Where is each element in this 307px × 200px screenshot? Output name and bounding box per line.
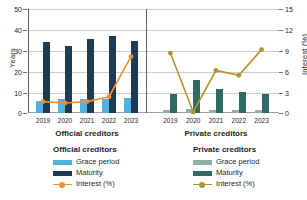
- interest-point[interactable]: 2022: 5.3%: [236, 73, 241, 78]
- interest-line-path: [170, 50, 261, 112]
- interest-point[interactable]: 2019: 1.5%: [41, 99, 46, 104]
- interest-point[interactable]: 2020: 0%: [191, 110, 196, 115]
- y-tick-30: 30: [6, 48, 22, 55]
- x-tick-label: 2021: [205, 115, 228, 126]
- legend-label-grace-private: Grace period: [216, 157, 259, 167]
- x-tick-label: 2022: [227, 115, 250, 126]
- y2-tick-9: 9: [285, 48, 301, 55]
- y2-tick-15: 15: [285, 6, 301, 13]
- interest-point[interactable]: 2020: 1.3%: [63, 101, 68, 106]
- legend-item-interest-private[interactable]: Interest (%): [193, 179, 259, 189]
- legend-swatch-grace-private: [193, 160, 212, 165]
- x-tick-label: 2022: [98, 115, 120, 126]
- legend-label-grace-official: Grace period: [76, 157, 119, 167]
- interest-point[interactable]: 2023: 8%: [129, 54, 134, 59]
- interest-line-path: [43, 57, 131, 103]
- panel-private-creditors: 2019: 8.5%2020: 0%2021: 6%2022: 5.3%2023…: [159, 8, 273, 113]
- legend-item-maturity-official[interactable]: Maturity: [53, 168, 119, 178]
- x-axis-labels-private: 20192020202120222023: [159, 115, 273, 126]
- legend-item-interest-official[interactable]: Interest (%): [53, 179, 119, 189]
- interest-point[interactable]: 2019: 8.5%: [168, 51, 173, 56]
- legend-heading-official: Official creditors: [53, 145, 119, 154]
- y-tick-40: 40: [6, 27, 22, 34]
- y-tick-10: 10: [6, 90, 22, 97]
- legend-swatch-maturity-official: [53, 171, 72, 176]
- y-tick-0: 0: [6, 110, 22, 117]
- x-axis-labels-official: 20192020202120222023: [32, 115, 142, 126]
- y-tick-50: 50: [6, 6, 22, 13]
- interest-point[interactable]: 2021: 6%: [214, 68, 219, 73]
- panel-title-private: Private creditors: [159, 129, 273, 138]
- y2-tick-0: 0: [285, 110, 301, 117]
- y2-tick-3: 3: [285, 90, 301, 97]
- legend-label-maturity-official: Maturity: [76, 168, 103, 178]
- legend-label-interest-private: Interest (%): [216, 179, 255, 189]
- interest-point[interactable]: 2022: 2.2%: [107, 94, 112, 99]
- legend-heading-private: Private creditors: [193, 145, 259, 154]
- x-tick-label: 2020: [182, 115, 205, 126]
- legend-swatch-maturity-private: [193, 171, 212, 176]
- legend-item-maturity-private[interactable]: Maturity: [193, 168, 259, 178]
- y2-tick-6: 6: [285, 69, 301, 76]
- panel-official-creditors: 2019: 1.5%2020: 1.3%2021: 1.5%2022: 2.2%…: [32, 8, 142, 113]
- interest-line-official: 2019: 1.5%2020: 1.3%2021: 1.5%2022: 2.2%…: [32, 8, 142, 113]
- legend-label-maturity-private: Maturity: [216, 168, 243, 178]
- right-axis-title: Interest (%): [300, 34, 307, 75]
- x-tick-label: 2020: [54, 115, 76, 126]
- left-panel-spine: [28, 9, 29, 113]
- legend-swatch-interest-official: [53, 179, 72, 189]
- x-tick-label: 2019: [159, 115, 182, 126]
- legend-item-grace-official[interactable]: Grace period: [53, 157, 119, 167]
- right-panel-spine: [146, 9, 147, 113]
- legend-private: Private creditors Grace period Maturity …: [193, 145, 259, 190]
- plot-area: 2019: 1.5%2020: 1.3%2021: 1.5%2022: 2.2%…: [28, 8, 279, 113]
- x-tick-label: 2023: [120, 115, 142, 126]
- chart-figure: Years 50 40 30 20 10 0 Interest (%) 15 1…: [0, 0, 307, 200]
- legend-item-grace-private[interactable]: Grace period: [193, 157, 259, 167]
- legend-swatch-interest-private: [193, 179, 212, 189]
- x-tick-label: 2021: [76, 115, 98, 126]
- legend-swatch-grace-official: [53, 160, 72, 165]
- interest-point[interactable]: 2021: 1.5%: [85, 99, 90, 104]
- interest-point[interactable]: 2023: 9%: [259, 47, 264, 52]
- panel-title-official: Official creditors: [32, 129, 142, 138]
- y2-tick-12: 12: [285, 27, 301, 34]
- legend-official: Official creditors Grace period Maturity…: [53, 145, 119, 190]
- legend-label-interest-official: Interest (%): [76, 179, 115, 189]
- x-tick-label: 2023: [250, 115, 273, 126]
- y-tick-20: 20: [6, 69, 22, 76]
- interest-line-private: 2019: 8.5%2020: 0%2021: 6%2022: 5.3%2023…: [159, 8, 273, 113]
- x-tick-label: 2019: [32, 115, 54, 126]
